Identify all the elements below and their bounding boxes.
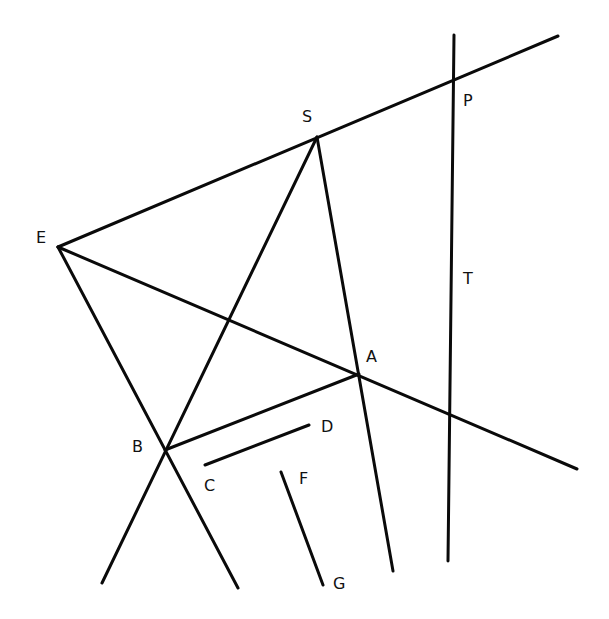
geometry-diagram: E S P T A B C D F G	[0, 0, 609, 619]
point-label-d: D	[321, 417, 333, 436]
point-label-t: T	[462, 269, 473, 288]
segment-cd	[205, 425, 309, 465]
point-label-c: C	[204, 476, 215, 495]
segment-ba	[165, 374, 359, 450]
line-eb	[58, 247, 238, 588]
point-label-g: G	[333, 574, 345, 593]
point-label-a: A	[366, 347, 377, 366]
line-ea	[58, 247, 577, 469]
line-sb	[102, 137, 317, 583]
segment-fg	[281, 472, 323, 585]
line-pt	[448, 35, 454, 561]
point-label-b: B	[132, 437, 143, 456]
diagram-lines	[58, 35, 577, 588]
point-label-p: P	[463, 91, 473, 110]
line-esp	[58, 36, 558, 247]
line-sa	[317, 137, 393, 571]
point-label-f: F	[299, 469, 308, 488]
point-label-s: S	[302, 107, 312, 126]
point-label-e: E	[36, 228, 46, 247]
diagram-labels: E S P T A B C D F G	[36, 91, 473, 593]
